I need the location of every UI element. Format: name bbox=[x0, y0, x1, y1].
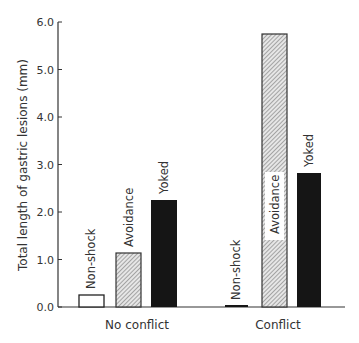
label-yoked-2: Yoked bbox=[302, 134, 316, 168]
bar-conflict-non-shock bbox=[225, 305, 248, 307]
bar-no-conflict-yoked bbox=[151, 200, 177, 307]
label-non-shock-2: Non-shock bbox=[229, 239, 243, 300]
group-label-no-conflict: No conflict bbox=[105, 318, 169, 332]
y-tick-1: 1.0 bbox=[37, 254, 55, 267]
label-avoidance-2: Avoidance bbox=[268, 175, 282, 234]
y-tick-2: 2.0 bbox=[37, 206, 55, 219]
y-axis-title: Total length of gastric lesions (mm) bbox=[16, 59, 30, 272]
y-tick-5: 5.0 bbox=[37, 64, 55, 77]
bar-conflict-avoidance bbox=[262, 34, 287, 307]
bar-conflict-yoked bbox=[297, 173, 321, 307]
group-conflict: Non-shock Avoidance Yoked Conflict bbox=[225, 34, 321, 332]
y-tick-0: 0.0 bbox=[37, 301, 55, 314]
bar-no-conflict-avoidance bbox=[116, 253, 141, 307]
group-no-conflict: Non-shock Avoidance Yoked No conflict bbox=[79, 161, 177, 332]
y-tick-6: 6.0 bbox=[37, 16, 55, 29]
y-tick-4: 4.0 bbox=[37, 111, 55, 124]
bar-no-conflict-non-shock bbox=[79, 295, 104, 307]
chart: Total length of gastric lesions (mm) 0.0… bbox=[0, 0, 359, 343]
label-yoked-1: Yoked bbox=[157, 161, 171, 195]
group-label-conflict: Conflict bbox=[255, 318, 301, 332]
label-non-shock-1: Non-shock bbox=[84, 228, 98, 289]
label-avoidance-1: Avoidance bbox=[122, 188, 136, 247]
y-tick-3: 3.0 bbox=[37, 159, 55, 172]
